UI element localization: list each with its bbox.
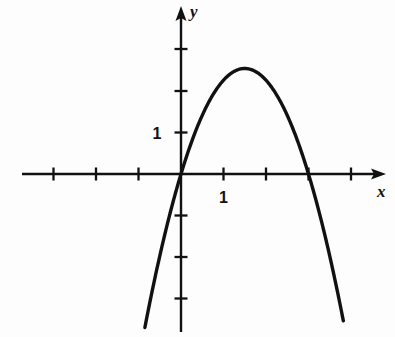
x-axis-label: x	[376, 182, 386, 201]
coordinate-plane: y x 1 1	[0, 0, 395, 337]
y-axis-label: y	[188, 2, 198, 21]
x-axis-unit-label: 1	[219, 189, 228, 206]
y-axis-unit-label: 1	[153, 125, 162, 142]
parabola-curve	[145, 68, 343, 327]
graph-figure: y x 1 1	[0, 0, 395, 337]
